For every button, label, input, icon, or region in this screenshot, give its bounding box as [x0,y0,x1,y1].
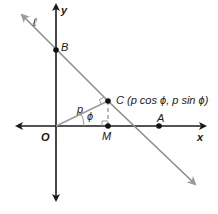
angle-phi-label: ϕ [87,110,93,122]
point-a-label: A [156,112,164,124]
segment-p-label: p [76,103,83,115]
line-l-label: ℓ [32,16,37,28]
point-c [105,98,111,104]
diagram-canvas: y x O ℓ B C (p cos ϕ, p sin ϕ) M A p ϕ [0,0,218,214]
y-axis-label: y [60,4,68,16]
point-b [53,47,59,53]
point-a [156,123,162,129]
point-c-label: C (p cos ϕ, p sin ϕ) [116,94,209,106]
point-m-label: M [102,130,112,142]
point-m [105,123,111,129]
angle-arc-phi [81,114,84,126]
origin-label: O [41,131,50,143]
x-axis-label: x [196,131,204,143]
point-b-label: B [61,41,68,53]
line-l-lower [108,101,195,184]
